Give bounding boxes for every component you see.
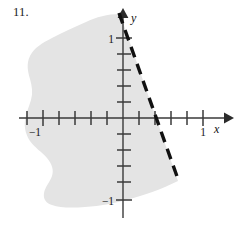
coordinate-plot: y x −1 1 1 −1 xyxy=(0,0,241,234)
y-tick-label-negative-one: −1 xyxy=(102,195,114,207)
x-axis-label: x xyxy=(213,122,220,136)
figure-container: 11. xyxy=(0,0,241,234)
shaded-solution-region xyxy=(25,14,178,208)
y-axis-label: y xyxy=(130,11,137,25)
x-tick-label-one: 1 xyxy=(200,126,206,138)
y-tick-label-one: 1 xyxy=(108,33,114,45)
x-axis-arrowhead xyxy=(224,113,234,124)
x-tick-label-negative-one: −1 xyxy=(29,126,41,138)
